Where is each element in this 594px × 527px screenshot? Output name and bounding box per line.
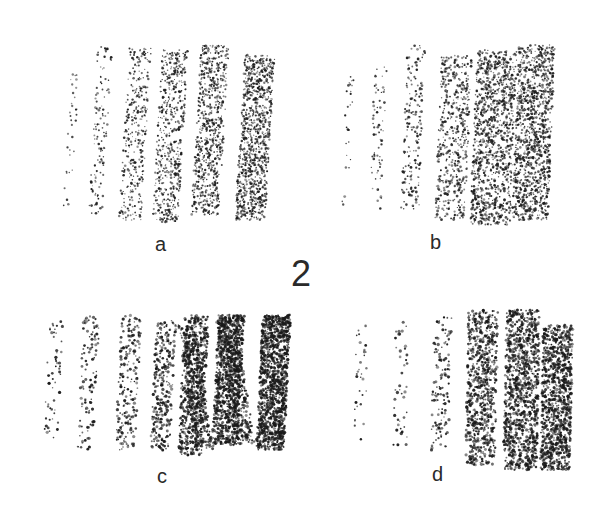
pencil-texture-graphic	[330, 30, 565, 230]
figure-number: 2	[291, 256, 311, 292]
panel-b-label: b	[430, 232, 441, 252]
charcoal-texture-graphic	[30, 305, 300, 460]
panel-d-label: d	[432, 464, 443, 484]
charcoal-texture-graphic	[340, 300, 575, 475]
panel-d-texture	[340, 300, 575, 475]
panel-c-label: c	[157, 466, 167, 486]
pencil-texture-graphic	[55, 30, 285, 225]
panel-a-texture	[55, 30, 285, 225]
panel-b-texture	[330, 30, 565, 230]
panel-c-texture	[30, 305, 300, 460]
panel-a-label: a	[155, 234, 166, 254]
